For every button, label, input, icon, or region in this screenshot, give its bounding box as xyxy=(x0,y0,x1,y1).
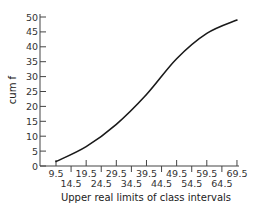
y-ticks: 05101520253035404550 xyxy=(26,12,46,172)
cumulative-frequency-curve xyxy=(56,20,237,162)
y-tick-label: 15 xyxy=(26,116,38,127)
y-axis-title: cum f xyxy=(7,75,18,104)
y-tick-label: 5 xyxy=(32,146,38,157)
x-tick-label: 24.5 xyxy=(91,178,112,189)
y-tick-label: 0 xyxy=(32,161,38,172)
y-tick-label: 10 xyxy=(26,131,38,142)
y-tick-label: 20 xyxy=(26,101,38,112)
y-tick-label: 25 xyxy=(26,86,38,97)
plot-area: 05101520253035404550 9.519.529.539.549.5… xyxy=(26,12,248,190)
y-tick-label: 40 xyxy=(26,41,38,52)
y-tick-label: 50 xyxy=(26,12,38,23)
x-tick-label: 44.5 xyxy=(151,178,172,189)
x-tick-label: 64.5 xyxy=(211,178,232,189)
y-tick-label: 45 xyxy=(26,26,38,37)
y-tick-label: 35 xyxy=(26,56,38,67)
ogive-chart: 05101520253035404550 9.519.529.539.549.5… xyxy=(0,0,259,207)
x-ticks: 9.519.529.539.549.559.569.514.524.534.54… xyxy=(48,160,247,189)
x-tick-label: 54.5 xyxy=(181,178,202,189)
y-tick-label: 30 xyxy=(26,71,38,82)
x-axis-title: Upper real limits of class intervals xyxy=(61,192,231,203)
x-tick-label: 34.5 xyxy=(121,178,142,189)
x-tick-label: 14.5 xyxy=(61,178,82,189)
